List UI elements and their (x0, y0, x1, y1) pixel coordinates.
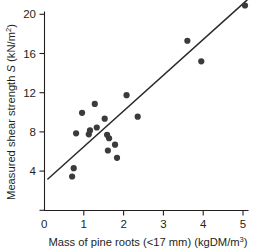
data-point (71, 165, 77, 171)
data-point (135, 114, 141, 120)
x-tick-label-0: 0 (41, 218, 47, 230)
y-tick-label-4: 4 (30, 165, 37, 177)
data-point (94, 124, 100, 130)
data-point (105, 147, 111, 153)
data-point (73, 130, 79, 136)
data-point (123, 92, 129, 98)
data-point (112, 142, 118, 148)
data-point (69, 173, 75, 179)
data-point (106, 135, 112, 141)
x-axis-tick-labels: 0 1 2 3 4 5 (41, 218, 246, 230)
data-point (92, 101, 98, 107)
data-point (242, 2, 248, 8)
x-axis-title-tail: ) (244, 236, 248, 248)
y-tick-label-12: 12 (23, 87, 36, 99)
y-tick-label-16: 16 (23, 48, 36, 60)
x-tick-label-1: 1 (81, 218, 87, 230)
data-point (87, 127, 93, 133)
y-tick-label-20: 20 (23, 8, 36, 20)
data-point (114, 155, 120, 161)
x-tick-label-5: 5 (240, 218, 246, 230)
y-tick-label-8: 8 (30, 126, 36, 138)
x-tick-label-4: 4 (200, 218, 207, 230)
y-axis-tick-labels: 20 16 12 8 4 (23, 8, 36, 177)
x-tick-label-3: 3 (160, 218, 166, 230)
x-axis-title: Mass of pine roots (<17 mm) (kgDM/m3) (48, 235, 247, 248)
data-point (184, 38, 190, 44)
scatter-plot-figure: 20 16 12 8 4 0 1 2 3 4 5 Mass of pine ro… (0, 0, 256, 251)
y-axis-title-tail: ) (5, 24, 17, 28)
data-point (79, 110, 85, 116)
y-axis-title: Measured shear strength S (kN/m2) (4, 24, 17, 200)
x-axis-ticks (84, 211, 243, 216)
data-points-group (69, 2, 248, 179)
chart-canvas: 20 16 12 8 4 0 1 2 3 4 5 Mass of pine ro… (0, 0, 256, 251)
y-axis-ticks (40, 14, 45, 210)
data-point (198, 58, 204, 64)
y-axis-title-lead: Measured shear strength (5, 72, 17, 199)
x-tick-label-2: 2 (120, 218, 126, 230)
y-axis-title-mid: (kN/m (5, 32, 17, 65)
data-point (102, 116, 108, 122)
regression-fit-line (48, 0, 247, 179)
x-axis-title-main: Mass of pine roots (<17 mm) (kgDM/m (48, 236, 239, 248)
